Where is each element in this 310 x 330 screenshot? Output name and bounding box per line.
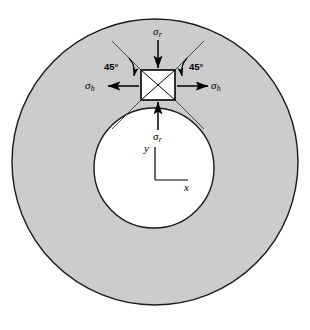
angle-right-label: 45°: [189, 62, 203, 72]
angle-left-label: 45°: [104, 62, 118, 72]
axis-x-label: x: [184, 182, 189, 193]
inner-circle-outline: [94, 108, 214, 228]
stress-element-figure: σr σr σh σh 45° 45° y x: [0, 0, 310, 330]
sigma-r-bottom-label: σr: [153, 131, 162, 144]
axis-y-label: y: [144, 143, 149, 154]
stress-element: [141, 70, 175, 100]
sigma-h-right-label: σh: [211, 80, 221, 93]
sigma-r-top-label: σr: [153, 26, 162, 39]
sigma-h-left-label: σh: [85, 80, 95, 93]
cylinder-cross-section-drawing: [0, 0, 310, 330]
coordinate-axes: [155, 147, 188, 180]
